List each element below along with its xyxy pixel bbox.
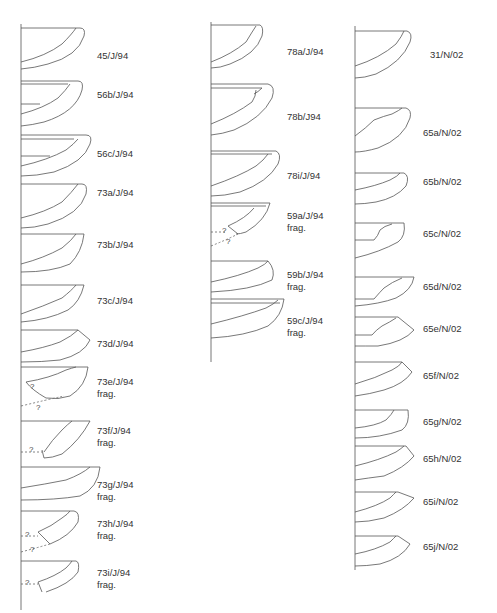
uncertainty-mark: ? (222, 226, 227, 235)
fragment-note: frag. (287, 281, 323, 293)
profile-id: 59c/J/94 (287, 315, 323, 327)
fragment-note: frag. (97, 530, 133, 542)
profile-78i-J-94 (211, 151, 280, 196)
profile-label: 65d/N/02 (423, 281, 462, 293)
profile-label: 65g/N/02 (423, 416, 462, 428)
profile-65b-N-02 (355, 173, 408, 204)
profile-id: 65i/N/02 (423, 496, 458, 507)
profile-id: 56b/J/94 (97, 89, 133, 100)
profile-label: 31/N/02 (430, 49, 463, 61)
profile-id: 73f/J/94 (97, 425, 131, 437)
profile-59a-J-94: ? ? (211, 203, 270, 246)
profile-label: 59c/J/94frag. (287, 315, 323, 339)
profile-73a-J-94 (21, 184, 87, 228)
profile-31-N-02 (355, 31, 411, 78)
profile-label: 65a/N/02 (423, 127, 462, 139)
profile-label: 73f/J/94frag. (97, 425, 131, 449)
profile-73f-J-94: ? (21, 421, 90, 458)
profile-56c-J-94 (21, 135, 91, 176)
fragment-note: frag. (97, 579, 130, 591)
profile-label: 65j/N/02 (423, 541, 458, 553)
profile-65c-N-02 (355, 223, 404, 258)
fragment-note: frag. (287, 327, 323, 339)
profile-59c-J-94 (211, 299, 284, 338)
profile-label: 73c/J/94 (97, 295, 133, 307)
profile-65h-N-02 (355, 446, 414, 480)
profile-59b-J-94 (211, 261, 273, 292)
profile-label: 65b/N/02 (423, 176, 462, 188)
profile-label: 78i/J/94 (287, 170, 320, 182)
uncertainty-mark: ? (25, 578, 30, 587)
profile-id: 73a/J/94 (97, 187, 133, 198)
profile-73e-J-94: ? ? (21, 367, 88, 412)
profile-65e-N-02 (355, 317, 414, 346)
uncertainty-mark: ? (30, 382, 35, 391)
profile-73b-J-94 (21, 234, 84, 272)
profile-id: 73g/J/94 (97, 479, 133, 491)
profile-id: 65a/N/02 (423, 127, 462, 138)
profile-id: 65e/N/02 (423, 323, 462, 334)
profile-label: 56b/J/94 (97, 89, 133, 101)
profile-label: 73b/J/94 (97, 239, 133, 251)
profile-id: 73c/J/94 (97, 295, 133, 306)
profile-id: 65c/N/02 (423, 228, 461, 239)
fragment-note: frag. (97, 388, 133, 400)
profile-id: 65f/N/02 (423, 370, 459, 381)
profile-label: 78b/J94 (287, 111, 321, 123)
profile-label: 73a/J/94 (97, 187, 133, 199)
profile-label: 73e/J/94frag. (97, 376, 133, 400)
profile-65a-N-02 (355, 108, 411, 152)
uncertainty-mark: ? (226, 237, 231, 246)
profile-id: 65b/N/02 (423, 176, 462, 187)
profile-label: 59a/J/94frag. (287, 210, 323, 234)
profile-id: 65g/N/02 (423, 416, 462, 427)
profile-id: 65d/N/02 (423, 281, 462, 292)
profile-65j-N-02 (355, 536, 410, 566)
profile-id: 56c/J/94 (97, 148, 133, 159)
uncertainty-mark: ? (30, 545, 35, 554)
fragment-note: frag. (287, 222, 323, 234)
profile-label: 59b/J/94frag. (287, 269, 323, 293)
profile-id: 78b/J94 (287, 111, 321, 122)
profile-73i-J-94: ? (21, 561, 79, 592)
profile-label: 73i/J/94frag. (97, 567, 130, 591)
profile-65f-N-02 (355, 362, 412, 396)
profile-id: 45/J/94 (97, 50, 128, 61)
profile-id: 78i/J/94 (287, 170, 320, 181)
profile-73d-J-94 (21, 330, 90, 362)
profile-label: 78a/J/94 (287, 46, 323, 58)
profile-label: 56c/J/94 (97, 148, 133, 160)
profile-label: 65f/N/02 (423, 370, 459, 382)
profile-label: 73d/J/94 (97, 338, 133, 350)
profile-drawings: ? ? ? ? ? (0, 0, 497, 613)
profile-id: 65j/N/02 (423, 541, 458, 552)
profile-id: 31/N/02 (430, 49, 463, 60)
profile-73h-J-94: ? ? (21, 511, 79, 554)
uncertainty-mark: ? (25, 530, 30, 539)
profile-id: 59b/J/94 (287, 269, 323, 281)
fragment-note: frag. (97, 491, 133, 503)
profile-id: 73h/J/94 (97, 518, 133, 530)
profile-73g-J-94 (21, 467, 100, 500)
profile-id: 65h/N/02 (423, 453, 462, 464)
profile-id: 73i/J/94 (97, 567, 130, 579)
profile-56b-J-94 (21, 81, 83, 126)
profile-78a-J-94 (211, 25, 263, 68)
profile-id: 73e/J/94 (97, 376, 133, 388)
uncertainty-mark: ? (29, 445, 34, 454)
profile-label: 65i/N/02 (423, 496, 458, 508)
profile-id: 73d/J/94 (97, 338, 133, 349)
profile-label: 65c/N/02 (423, 228, 461, 240)
profile-label: 65e/N/02 (423, 323, 462, 335)
fragment-note: frag. (97, 437, 131, 449)
pottery-profile-figure: ? ? ? ? ? (0, 0, 497, 613)
profile-65i-N-02 (355, 492, 414, 522)
uncertainty-mark: ? (36, 403, 41, 412)
profile-label: 73h/J/94frag. (97, 518, 133, 542)
profile-65g-N-02 (355, 410, 408, 438)
profile-label: 45/J/94 (97, 50, 128, 62)
profile-65d-N-02 (355, 277, 414, 306)
profile-73c-J-94 (21, 285, 84, 322)
profile-label: 73g/J/94frag. (97, 479, 133, 503)
profile-id: 59a/J/94 (287, 210, 323, 222)
